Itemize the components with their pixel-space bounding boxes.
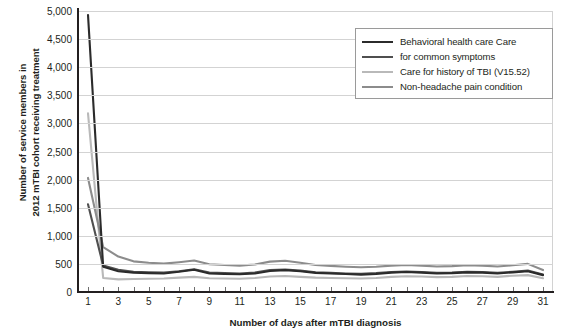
- gridline: [78, 11, 553, 12]
- y-tick-label: 2,500: [47, 146, 72, 157]
- gridline: [78, 208, 553, 209]
- x-tick-label: 7: [176, 296, 182, 307]
- x-tick-label: 31: [537, 296, 548, 307]
- legend-label: Care for history of TBI (V15.52): [400, 66, 530, 77]
- legend-color-swatch: [362, 86, 393, 88]
- legend-item: Care for history of TBI (V15.52): [362, 64, 546, 79]
- x-tick-label: 3: [116, 296, 122, 307]
- x-tick-label: 9: [207, 296, 213, 307]
- gridline: [78, 236, 553, 237]
- legend-color-swatch: [362, 41, 393, 43]
- legend-label: Non-headache pain condition: [400, 81, 522, 92]
- legend-label: for common symptoms: [400, 51, 495, 62]
- x-tick-label: 1: [85, 296, 91, 307]
- legend-color-swatch: [362, 71, 393, 73]
- legend-color-swatch: [362, 56, 393, 58]
- x-tick-label: 27: [477, 296, 488, 307]
- y-tick-label: 4,500: [47, 34, 72, 45]
- y-tick-label: 2,000: [47, 174, 72, 185]
- x-axis-line: [77, 291, 554, 293]
- x-tick-label: 11: [234, 296, 244, 307]
- y-tick-label: 3,000: [47, 118, 72, 129]
- y-tick-label: 5,000: [47, 6, 72, 17]
- x-tick-label: 15: [295, 296, 306, 307]
- x-tick-label: 5: [146, 296, 152, 307]
- y-axis-title: Number of service members in 2012 mTBI c…: [17, 8, 42, 258]
- x-tick-label: 21: [386, 296, 397, 307]
- y-tick-label: 500: [55, 258, 72, 269]
- legend-label: Behavioral health care Care: [400, 36, 516, 47]
- x-tick-label: 25: [446, 296, 457, 307]
- x-tick-label: 29: [507, 296, 518, 307]
- legend-item: Behavioral health care Care: [362, 34, 546, 49]
- x-tick-label: 17: [325, 296, 336, 307]
- y-tick-label: 3,500: [47, 90, 72, 101]
- y-axis-line: [77, 8, 79, 293]
- chart-legend: Behavioral health care Carefor common sy…: [355, 28, 553, 99]
- gridline: [78, 152, 553, 153]
- gridline: [78, 180, 553, 181]
- y-tick-label: 1,000: [47, 230, 72, 241]
- x-axis-title: Number of days after mTBI diagnosis: [78, 317, 553, 328]
- x-tick-label: 19: [355, 296, 366, 307]
- y-tick-label: 0: [66, 287, 72, 298]
- legend-item: Non-headache pain condition: [362, 79, 546, 94]
- legend-item: for common symptoms: [362, 49, 546, 64]
- x-tick-label: 23: [416, 296, 427, 307]
- chart-figure: Number of service members in 2012 mTBI c…: [0, 0, 565, 335]
- y-tick-label: 4,000: [47, 62, 72, 73]
- gridline: [78, 123, 553, 124]
- y-tick-label: 1,500: [47, 202, 72, 213]
- gridline: [78, 264, 553, 265]
- x-tick-label: 13: [264, 296, 275, 307]
